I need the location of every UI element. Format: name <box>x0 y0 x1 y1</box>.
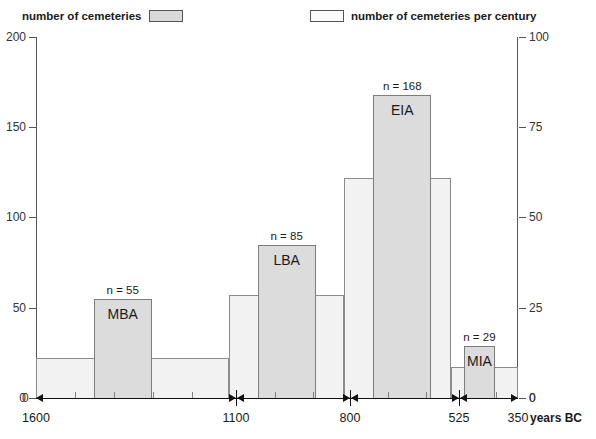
baseline-zero-right: 0 <box>529 391 536 405</box>
y-label-left-150: 150 <box>0 120 26 134</box>
legend-entry-cemeteries: number of cemeteries <box>22 10 183 22</box>
span-arrow-left-lba <box>237 394 244 402</box>
span-rule-eia <box>350 398 459 399</box>
legend-swatch-empty-icon <box>310 10 344 22</box>
y-tick-right-25 <box>519 308 526 309</box>
bar-value-mba: n = 55 <box>74 284 172 296</box>
x-label-1600: 1600 <box>14 411 58 425</box>
x-axis-units-label: years BC <box>530 411 582 425</box>
y-label-right-75: 75 <box>529 120 542 134</box>
y-tick-left-50 <box>29 308 36 309</box>
x-label-1100: 1100 <box>214 411 258 425</box>
x-axis-baseline <box>36 398 518 399</box>
y-axis-left <box>36 37 37 398</box>
y-tick-right-75 <box>519 127 526 128</box>
bar-value-mia: n = 29 <box>444 331 515 343</box>
baseline-zero-left: 0 <box>22 391 29 405</box>
legend-entry-cemeteries-per-century: number of cemeteries per century <box>310 10 536 22</box>
span-arrow-left-eia <box>351 394 358 402</box>
span-arrow-left-mba <box>36 394 43 402</box>
y-axis-right <box>517 37 518 398</box>
bar-label-eia: EIA <box>374 102 430 118</box>
y-label-right-25: 25 <box>529 301 542 315</box>
y-tick-left-100 <box>29 217 36 218</box>
chart-figure: number of cemeteries number of cemeterie… <box>0 0 596 439</box>
span-rule-mba <box>36 398 236 399</box>
legend-swatch-filled-icon <box>149 10 183 22</box>
legend-label-cemeteries-per-century: number of cemeteries per century <box>351 10 536 22</box>
span-rule-lba <box>236 398 350 399</box>
span-arrow-right-lba <box>343 394 350 402</box>
bar-lba: LBA <box>258 245 316 398</box>
y-label-left-100: 100 <box>0 210 26 224</box>
y-label-right-100: 100 <box>529 30 549 44</box>
span-rule-mia <box>459 398 518 399</box>
bar-mba: MBA <box>94 299 152 398</box>
bar-mia: MIA <box>464 346 495 398</box>
y-tick-right-50 <box>519 217 526 218</box>
y-label-left-200: 200 <box>0 30 26 44</box>
y-label-right-50: 50 <box>529 210 542 224</box>
y-tick-left-150 <box>29 127 36 128</box>
span-arrow-right-mba <box>229 394 236 402</box>
bar-value-lba: n = 85 <box>238 230 336 242</box>
bar-label-mba: MBA <box>95 306 151 322</box>
span-arrow-left-mia <box>460 394 467 402</box>
y-tick-right-100 <box>519 37 526 38</box>
bar-label-lba: LBA <box>259 252 315 268</box>
bar-value-eia: n = 168 <box>353 80 451 92</box>
y-tick-left-200 <box>29 37 36 38</box>
span-arrow-right-mia <box>511 394 518 402</box>
bar-label-mia: MIA <box>465 353 494 369</box>
x-label-800: 800 <box>328 411 372 425</box>
y-label-left-50: 50 <box>0 301 26 315</box>
legend-label-cemeteries: number of cemeteries <box>22 10 142 22</box>
bar-eia: EIA <box>373 95 431 398</box>
span-arrow-right-eia <box>452 394 459 402</box>
y-tick-left-0 <box>29 398 36 399</box>
y-tick-right-0 <box>519 398 526 399</box>
x-label-525: 525 <box>437 411 481 425</box>
